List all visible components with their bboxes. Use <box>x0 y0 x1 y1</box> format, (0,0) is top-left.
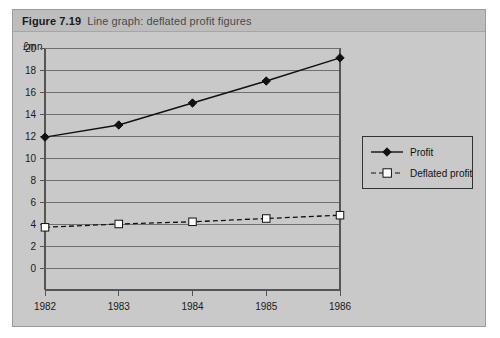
line-chart-svg: 0246810121416182019821983198419851986Pro… <box>13 32 487 327</box>
x-axis-tick-labels: 19821983198419851986 <box>34 290 352 312</box>
figure-caption-bar: Figure 7.19 Line graph: deflated profit … <box>13 10 485 32</box>
y-tick-label: 10 <box>25 153 37 164</box>
y-tick-label: 18 <box>25 65 37 76</box>
chart-legend: ProfitDeflated profit <box>362 136 472 188</box>
x-tick-label: 1985 <box>255 301 278 312</box>
plot-frame <box>45 48 340 290</box>
data-point-marker <box>263 215 271 223</box>
data-point-marker <box>262 77 270 85</box>
figure-caption-text: Line graph: deflated profit figures <box>87 15 251 27</box>
legend-label: Deflated profit <box>410 168 472 179</box>
x-tick-label: 1982 <box>34 301 57 312</box>
data-point-marker <box>115 220 123 228</box>
y-tick-label: 16 <box>25 87 37 98</box>
legend-marker-open-square <box>383 169 391 177</box>
y-tick-label: 8 <box>30 175 36 186</box>
figure-panel: Figure 7.19 Line graph: deflated profit … <box>12 9 486 327</box>
x-tick-label: 1983 <box>108 301 131 312</box>
series-profit <box>41 54 344 142</box>
y-tick-label: 4 <box>30 219 36 230</box>
series-deflated-profit <box>41 211 344 231</box>
x-tick-label: 1986 <box>329 301 352 312</box>
data-point-marker <box>41 224 49 232</box>
legend-label: Profit <box>410 147 434 158</box>
chart-area: £mn 024681012141618201982198319841985198… <box>13 32 487 327</box>
y-tick-label: 20 <box>25 43 37 54</box>
data-point-marker <box>115 121 123 129</box>
data-point-marker <box>188 99 196 107</box>
y-tick-label: 14 <box>25 109 37 120</box>
legend-item: Deflated profit <box>371 168 472 179</box>
data-point-marker <box>41 133 49 141</box>
gridlines <box>40 48 340 268</box>
figure-number: Figure 7.19 <box>22 15 81 27</box>
y-tick-label: 12 <box>25 131 37 142</box>
y-axis-tick-labels: 02468101214161820 <box>25 43 37 274</box>
data-point-marker <box>336 211 344 219</box>
y-tick-label: 0 <box>30 263 36 274</box>
data-point-marker <box>336 54 344 62</box>
x-tick-label: 1984 <box>181 301 204 312</box>
y-tick-label: 6 <box>30 197 36 208</box>
data-point-marker <box>189 218 197 226</box>
y-tick-label: 2 <box>30 241 36 252</box>
